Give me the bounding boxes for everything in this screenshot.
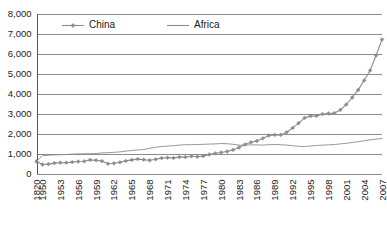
- data-point-marker: [184, 155, 188, 159]
- data-point-marker: [70, 160, 74, 164]
- data-point-marker: [172, 156, 176, 160]
- x-axis-tick-label: 1977: [198, 180, 209, 201]
- data-point-marker: [58, 161, 62, 165]
- data-point-marker: [225, 150, 229, 154]
- x-axis-tick-label: 2001: [341, 180, 352, 201]
- data-point-marker: [112, 161, 116, 165]
- x-axis-tick-label: 1959: [91, 180, 102, 201]
- y-axis-tick-label: 5,000: [8, 68, 32, 79]
- data-point-marker: [124, 159, 128, 163]
- data-point-marker: [136, 157, 140, 161]
- y-axis-tick-labels: 01,0002,0003,0004,0005,0006,0007,0008,00…: [8, 8, 32, 179]
- x-axis-tick-labels: 1820195019531956195919621965196819711974…: [31, 180, 387, 201]
- data-point-marker: [100, 159, 104, 163]
- data-series-group: [35, 38, 384, 167]
- x-axis-tick-label: 1950: [37, 180, 48, 201]
- series-line-china: [37, 40, 383, 165]
- data-point-marker: [142, 158, 146, 162]
- x-axis-tick-label: 1974: [180, 180, 191, 201]
- data-point-marker: [321, 112, 325, 116]
- data-point-marker: [106, 162, 110, 166]
- data-point-marker: [160, 156, 164, 160]
- data-point-marker: [207, 153, 211, 157]
- data-point-marker: [249, 140, 253, 144]
- y-axis-tick-label: 4,000: [8, 88, 32, 99]
- data-point-marker: [118, 160, 122, 164]
- data-point-marker: [41, 163, 45, 167]
- data-point-marker: [195, 155, 199, 159]
- data-point-marker: [64, 161, 68, 165]
- data-point-marker: [82, 159, 86, 163]
- data-point-marker: [261, 136, 265, 140]
- y-axis-tick-label: 7,000: [8, 28, 32, 39]
- data-point-marker: [154, 157, 158, 161]
- x-axis-tick-label: 1968: [144, 180, 155, 201]
- y-axis-tick-label: 1,000: [8, 148, 32, 159]
- y-axis-tick-label: 6,000: [8, 48, 32, 59]
- x-axis-tick-label: 2007: [377, 180, 387, 201]
- legend-marker-china: [71, 23, 75, 27]
- data-point-marker: [76, 160, 80, 164]
- y-axis-tick-label: 2,000: [8, 128, 32, 139]
- data-point-marker: [243, 143, 247, 147]
- data-point-marker: [47, 162, 51, 166]
- x-axis-tick-label: 1965: [126, 180, 137, 201]
- x-axis-tick-label: 1995: [305, 180, 316, 201]
- x-axis-tick-label: 1980: [216, 180, 227, 201]
- x-axis-tick-label: 1992: [287, 180, 298, 201]
- y-axis-tick-label: 0: [26, 168, 31, 179]
- y-axis-tick-label: 3,000: [8, 108, 32, 119]
- x-axis-tick-label: 1956: [73, 180, 84, 201]
- data-point-marker: [52, 161, 56, 165]
- x-axis-tick-label: 1986: [251, 180, 262, 201]
- gridlines-group: [37, 15, 383, 175]
- data-point-marker: [231, 148, 235, 152]
- data-point-marker: [178, 155, 182, 159]
- x-axis-tick-label: 1983: [234, 180, 245, 201]
- data-point-marker: [279, 133, 283, 137]
- data-point-marker: [380, 38, 384, 42]
- series-line-africa: [37, 139, 383, 162]
- data-point-marker: [130, 158, 134, 162]
- x-axis-tick-label: 1971: [162, 180, 173, 201]
- line-chart: 01,0002,0003,0004,0005,0006,0007,0008,00…: [0, 0, 387, 229]
- data-point-marker: [148, 158, 152, 162]
- data-point-marker: [273, 133, 277, 137]
- x-axis-tick-label: 2004: [359, 180, 370, 201]
- x-axis-tick-label: 1962: [108, 180, 119, 201]
- y-axis-tick-label: 8,000: [8, 8, 32, 19]
- x-axis-tick-label: 1989: [269, 180, 280, 201]
- data-point-marker: [189, 154, 193, 158]
- legend-label-africa: Africa: [194, 19, 220, 30]
- chart-legend: ChinaAfrica: [62, 19, 220, 30]
- x-axis-tick-label: 1953: [55, 180, 66, 201]
- data-point-marker: [255, 139, 259, 143]
- data-point-marker: [237, 146, 241, 150]
- chart-container: 01,0002,0003,0004,0005,0006,0007,0008,00…: [0, 0, 387, 229]
- data-point-marker: [88, 158, 92, 162]
- legend-label-china: China: [89, 19, 116, 30]
- data-point-marker: [94, 158, 98, 162]
- data-point-marker: [166, 156, 170, 160]
- data-point-marker: [219, 151, 223, 155]
- x-axis-tick-label: 1998: [323, 180, 334, 201]
